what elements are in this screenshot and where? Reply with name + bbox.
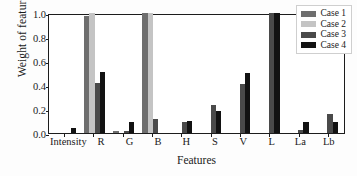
legend-label: Case 2: [320, 20, 346, 30]
bar: [153, 119, 158, 133]
legend-label: Case 4: [320, 41, 346, 51]
bar-group: [51, 15, 80, 133]
bar-group: [167, 15, 196, 133]
x-axis-tick-label: G: [115, 136, 143, 147]
bar: [216, 111, 221, 133]
x-axis-tick-label: S: [201, 136, 229, 147]
x-axis-tick-label: Intensity: [50, 136, 87, 147]
legend-swatch: [301, 21, 316, 27]
x-axis-tick-label: B: [144, 136, 172, 147]
y-axis-tick-label: 0.6: [33, 58, 46, 69]
bar-group: [109, 15, 138, 133]
legend-item: Case 1: [301, 9, 346, 19]
y-axis-tick-label: 0.0: [33, 130, 46, 141]
legend-label: Case 1: [320, 9, 346, 19]
legend: Case 1Case 2Case 3Case 4: [296, 5, 352, 54]
legend-item: Case 3: [301, 30, 346, 40]
x-axis-tick-label: V: [229, 136, 257, 147]
bar: [129, 122, 134, 133]
bar-group: [255, 15, 284, 133]
legend-swatch: [301, 32, 316, 38]
bar: [303, 122, 308, 133]
y-axis-title: Weight of features: [16, 0, 28, 100]
legend-swatch: [301, 42, 316, 48]
x-axis-tick-label: La: [286, 136, 314, 147]
legend-item: Case 2: [301, 20, 346, 30]
legend-item: Case 4: [301, 41, 346, 51]
bar-group: [138, 15, 167, 133]
bar: [148, 13, 153, 133]
y-axis-tick-label: 0.4: [33, 82, 46, 93]
bar: [187, 121, 192, 133]
bar: [274, 13, 279, 133]
y-axis-tick-label: 0.2: [33, 106, 46, 117]
bar: [71, 128, 76, 133]
x-axis-tick-label: L: [258, 136, 286, 147]
bar-group: [226, 15, 255, 133]
x-axis-tick-label: R: [87, 136, 115, 147]
bar-group: [80, 15, 109, 133]
y-axis-tick-label: 0.8: [33, 34, 46, 45]
x-axis-tick-label: Lb: [315, 136, 343, 147]
bar: [333, 122, 338, 133]
legend-swatch: [301, 11, 316, 17]
bar-group: [196, 15, 225, 133]
bar: [245, 73, 250, 133]
x-axis-title: Features: [48, 154, 345, 166]
x-axis-tick-labels: IntensityRGBHSVLLaLb: [48, 136, 345, 147]
bar: [100, 72, 105, 133]
legend-label: Case 3: [320, 30, 346, 40]
bar: [113, 131, 118, 133]
y-axis-tick-label: 1.0: [33, 10, 46, 21]
bar-chart-figure: Weight of features 0.00.20.40.60.81.0 In…: [0, 0, 357, 176]
x-axis-tick-label: H: [172, 136, 200, 147]
